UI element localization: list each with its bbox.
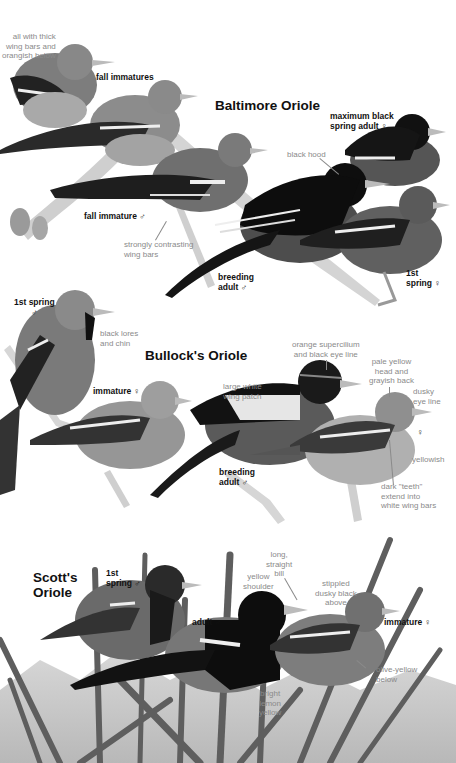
note-dark-teeth: dark "teeth" extend into white wing bars xyxy=(381,482,436,511)
note-black-lores-and-chin: black lores and chin xyxy=(100,329,138,348)
label-female-bullocks: ♀ xyxy=(417,427,423,437)
label-immature-female-scotts: immature ♀ xyxy=(384,617,431,627)
note-stippled-dusky-black: stippled dusky black above xyxy=(315,579,357,608)
title-baltimore-oriole: Baltimore Oriole xyxy=(215,98,320,113)
note-dusky-eye-line: dusky eye line xyxy=(413,387,441,406)
label-first-spring-male-scotts: 1st spring ♂ xyxy=(106,568,141,588)
note-yellowish: yellowish xyxy=(412,455,444,465)
note-pale-yellow-head: pale yellow head and grayish back xyxy=(369,357,414,386)
note-long-straight-bill: long, straight bill xyxy=(266,550,292,579)
leader-line-pale-yellow xyxy=(389,387,390,397)
label-adult-male-scotts: adult ♂ xyxy=(192,617,221,627)
title-scotts-oriole: Scott's Oriole xyxy=(33,570,77,600)
note-bright-lemon-yellow: bright lemon yellow xyxy=(259,689,281,718)
note-olive-yellow-below: olive-yellow below xyxy=(376,665,417,684)
label-first-spring-female-baltimore: 1st spring ♀ xyxy=(406,268,441,288)
label-fall-immatures: fall immatures xyxy=(96,72,154,82)
note-thick-wing-bars: all with thick wing bars and orangish be… xyxy=(2,32,56,61)
title-bullocks-oriole: Bullock's Oriole xyxy=(145,348,247,363)
label-immature-female-bullocks: immature ♀ xyxy=(93,386,140,396)
label-breeding-adult-male-bullocks: breeding adult ♂ xyxy=(219,467,255,487)
leader-line-supercilium xyxy=(326,360,327,370)
label-first-spring-male-bullocks: 1st spring ♂ xyxy=(14,297,55,317)
note-large-white-wing-patch: large white wing patch xyxy=(223,382,262,401)
note-strongly-contrasting-wing-bars: strongly contrasting wing bars xyxy=(124,240,193,259)
label-breeding-adult-male-baltimore: breeding adult ♂ xyxy=(218,272,254,292)
oriole-field-guide-plate: Baltimore Oriole Bullock's Oriole Scott'… xyxy=(0,0,456,763)
label-fall-immature-male: fall immature ♂ xyxy=(84,211,146,221)
label-maximum-black-spring-female: maximum black spring adult ♀ xyxy=(330,111,394,131)
note-orange-supercilium: orange supercilium and black eye line xyxy=(292,340,360,359)
